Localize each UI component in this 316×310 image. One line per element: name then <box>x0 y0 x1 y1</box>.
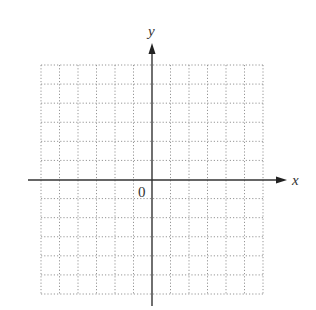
x-axis-arrow-icon <box>276 177 287 184</box>
x-axis-label: x <box>291 172 299 188</box>
coordinate-plane: x y 0 <box>0 0 316 310</box>
y-axis-label: y <box>146 23 155 39</box>
origin-label: 0 <box>138 184 146 200</box>
y-axis-arrow-icon <box>149 43 156 54</box>
